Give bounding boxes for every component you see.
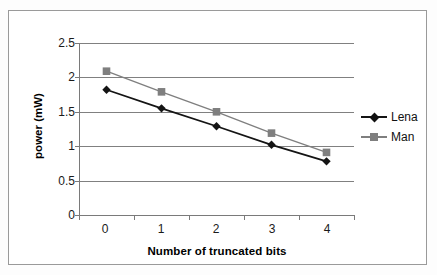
diamond-marker-icon (369, 112, 379, 122)
x-tick-boundary-2 (189, 216, 190, 220)
x-tick-label-0: 0 (90, 222, 120, 236)
legend-label-lena: Lena (387, 111, 418, 124)
gridline-2 (79, 77, 354, 78)
y-tick-label-0: 0 (68, 209, 75, 221)
x-tick-boundary-3 (244, 216, 245, 220)
plot-area (79, 43, 354, 215)
y-tick-label-1.5: 1.5 (58, 106, 75, 118)
x-axis-line (79, 215, 355, 216)
chart-legend: Lena Man (361, 107, 431, 147)
y-tick-1 (75, 146, 79, 147)
x-tick-label-2: 2 (201, 222, 231, 236)
gridline-1 (79, 146, 354, 147)
y-tick-label-2.5: 2.5 (58, 37, 75, 49)
gridline-0.5 (79, 181, 354, 182)
y-axis-title-text: power (mW) (32, 93, 44, 159)
x-tick-boundary-1 (134, 216, 135, 220)
chart-page: 2.5 2 1.5 1 0.5 0 0 1 2 3 4 Number of tr… (0, 0, 437, 275)
x-axis-title: Number of truncated bits (79, 245, 355, 257)
x-tick-boundary-4 (299, 216, 300, 220)
chart-frame: 2.5 2 1.5 1 0.5 0 0 1 2 3 4 Number of tr… (8, 10, 427, 265)
legend-item-lena: Lena (361, 107, 431, 127)
legend-key-man (361, 130, 387, 144)
y-axis-title: power (mW) (31, 71, 45, 181)
legend-key-lena (361, 110, 387, 124)
y-tick-label-1: 1 (68, 140, 75, 152)
y-tick-2 (75, 77, 79, 78)
y-axis-line (79, 43, 80, 216)
y-tick-2.5 (75, 43, 79, 44)
gridline-1.5 (79, 112, 354, 113)
y-tick-label-2: 2 (68, 71, 75, 83)
y-tick-0.5 (75, 181, 79, 182)
x-tick-label-4: 4 (312, 222, 342, 236)
x-tick-boundary-5 (354, 216, 355, 220)
y-tick-label-0.5: 0.5 (58, 175, 75, 187)
square-marker-icon (370, 133, 378, 141)
y-tick-1.5 (75, 112, 79, 113)
x-tick-label-3: 3 (257, 222, 287, 236)
legend-label-man: Man (387, 131, 414, 144)
legend-item-man: Man (361, 127, 431, 147)
x-tick-label-1: 1 (146, 222, 176, 236)
x-tick-boundary-0 (79, 216, 80, 220)
gridline-2.5 (79, 43, 354, 44)
